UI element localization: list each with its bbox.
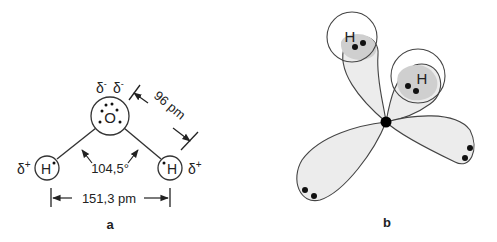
hydrogen-top-symbol: H bbox=[345, 28, 356, 45]
bond-length-arrow-bottom bbox=[173, 128, 190, 141]
bond-length-tick-top bbox=[129, 85, 140, 100]
orbital-lobe-right-lower bbox=[386, 116, 474, 164]
hydrogen-right-symbol: H bbox=[167, 161, 177, 177]
water-molecule-diagram: O δ- δ- H δ+ H δ+ 96 pm 104,5° bbox=[0, 0, 497, 242]
bond-length-arrow-top bbox=[134, 93, 148, 103]
hydrogen-right-electron bbox=[163, 162, 166, 165]
hydrogen-right-charge: δ+ bbox=[188, 159, 202, 177]
panel-a: O δ- δ- H δ+ H δ+ 96 pm 104,5° bbox=[17, 79, 202, 232]
bond-right bbox=[124, 128, 161, 159]
bond-left bbox=[57, 128, 96, 159]
hh-distance-label: 151,3 pm bbox=[82, 191, 136, 206]
orbital-lobe-lower-left bbox=[297, 122, 386, 201]
panel-b bbox=[297, 12, 474, 201]
oxygen-symbol: O bbox=[104, 109, 116, 126]
panel-b-label: b bbox=[383, 215, 391, 230]
oxygen-charge-1: δ- bbox=[96, 79, 107, 96]
oxygen-charge-2: δ- bbox=[113, 79, 124, 96]
oxygen-nucleus bbox=[381, 117, 392, 128]
hydrogen-left-electron bbox=[53, 162, 56, 165]
hydrogen-right-symbol-b: H bbox=[417, 70, 428, 87]
bond-angle-label: 104,5° bbox=[91, 161, 129, 176]
hydrogen-left-charge: δ+ bbox=[17, 159, 31, 177]
hydrogen-left-symbol: H bbox=[41, 161, 51, 177]
panel-a-label: a bbox=[106, 217, 114, 232]
angle-arrow-right bbox=[128, 150, 138, 163]
bond-length-label: 96 pm bbox=[151, 88, 188, 123]
